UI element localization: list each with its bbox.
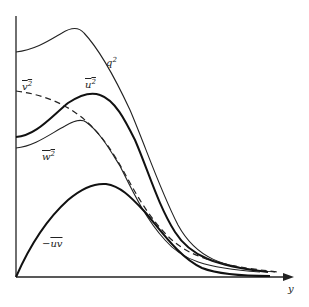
label-w2: w2 (42, 150, 55, 162)
x-axis-label: y (288, 283, 294, 294)
label-q2: q2 (106, 56, 117, 68)
label-uv: −uv (42, 238, 62, 249)
curve-w2 (16, 120, 260, 272)
label-u2: u2 (85, 78, 96, 90)
reynolds-stress-chart: q2 u2 v2 w2 −uv y (0, 0, 309, 307)
curve-uv (16, 184, 270, 277)
label-v2: v2 (22, 80, 32, 92)
x-axis-arrow-icon (283, 273, 294, 281)
